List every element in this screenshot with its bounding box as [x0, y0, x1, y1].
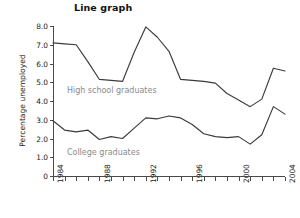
data-line-high-school-graduates — [53, 27, 285, 107]
data-line-college-graduates — [53, 107, 285, 145]
line-chart: Line graph Percentage unemployed 01.02.0… — [0, 0, 300, 218]
series-label-high-school-graduates: High school graduates — [67, 86, 157, 95]
series-label-college-graduates: College graduates — [67, 148, 140, 157]
plot-area — [0, 0, 300, 218]
